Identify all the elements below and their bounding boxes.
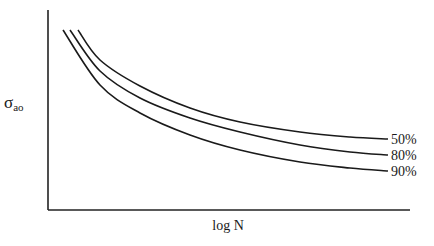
curve-label-90pct: 90%: [391, 164, 417, 179]
y-axis-label-subscript: ao: [13, 101, 24, 113]
curve-label-80pct: 80%: [391, 148, 417, 163]
curve-label-group: 50%80%90%: [391, 132, 417, 179]
curve-90pct: [63, 30, 388, 171]
y-axis-label-main: σ: [4, 93, 13, 112]
curve-50pct: [78, 30, 388, 139]
curve-label-50pct: 50%: [391, 132, 417, 147]
sn-chart: 50%80%90% log N σao: [0, 0, 434, 246]
y-axis-label: σao: [4, 93, 24, 113]
curve-group: [63, 30, 388, 171]
x-axis-label: log N: [212, 218, 244, 233]
